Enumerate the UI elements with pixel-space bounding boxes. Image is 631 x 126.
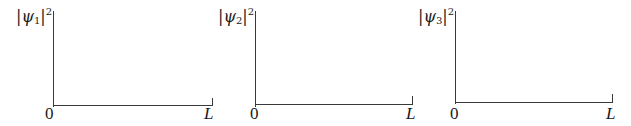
x-tick-0: 0 [45,104,54,124]
superscript: 2 [448,6,454,17]
y-axis [53,11,54,107]
y-axis [455,11,456,104]
x-axis [255,104,413,105]
x-axis [53,105,213,106]
y-axis-label: |ψ3|2 [418,6,454,26]
superscript: 2 [46,6,52,17]
psi-symbol: ψ [423,7,436,26]
x-end-tick [612,94,613,103]
y-axis [255,11,256,107]
x-tick-0: 0 [250,104,259,124]
x-tick-0: 0 [450,104,459,124]
y-axis-label: |ψ2|2 [218,6,254,26]
plot-psi3: |ψ3|2 0 L [402,0,602,126]
subscript: 2 [236,15,242,26]
y-axis-label: |ψ1|2 [16,6,52,26]
psi-symbol: ψ [223,7,236,26]
psi-symbol: ψ [21,7,34,26]
subscript: 1 [34,15,40,26]
x-tick-L: L [606,104,615,124]
x-axis [455,102,613,103]
plot-psi1: |ψ1|2 0 L [0,0,200,126]
superscript: 2 [248,6,254,17]
subscript: 3 [436,15,442,26]
plot-psi2: |ψ2|2 0 L [202,0,402,126]
